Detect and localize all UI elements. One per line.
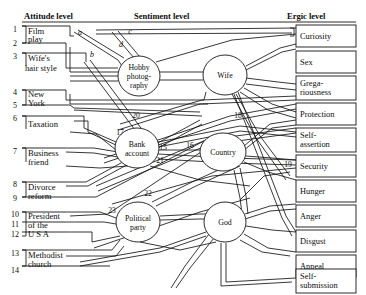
edge-tag-20: 20 — [132, 111, 140, 120]
attitude-bracket-4-5 — [22, 90, 26, 105]
self-submission-label-line: submission — [300, 281, 339, 290]
attitude-label-taxation: Taxation — [28, 119, 59, 129]
wire-business-friend-alt — [66, 166, 128, 168]
edge-tag-16: 16 — [186, 141, 194, 150]
edge-tag-17: 17 — [116, 128, 124, 137]
edge-tag-23: 23 — [108, 206, 116, 215]
wire-business-friend-to-bank — [66, 148, 118, 152]
sentiment-node-political-party[interactable]: Political party — [116, 202, 160, 242]
edge-tag-22: 22 — [144, 189, 152, 198]
attitude-label-line: hair style — [25, 63, 57, 73]
row-number-11: 11 — [11, 220, 19, 229]
attitude-bracket-6 — [22, 116, 26, 129]
protection-label: Protection — [300, 110, 335, 119]
wire-taxation-to-bank — [70, 116, 116, 142]
attitude-label-president-of-the-usa: President of the U S A — [28, 211, 61, 239]
wire-god-to-self-submission — [226, 243, 296, 282]
wire-attitude-1-hook — [70, 26, 74, 36]
wire-god-tail-left — [176, 238, 214, 288]
self-assertion-label-line: Self- — [300, 131, 316, 140]
edge-tag-b: b — [90, 50, 94, 59]
row-number-14: 14 — [11, 266, 19, 275]
ergic-box-gregariousness[interactable]: Grega- riousness — [296, 76, 356, 100]
sentiment-node-hobby-photography[interactable]: Hobby photog- raphy — [118, 56, 160, 96]
bank-account-label-line: account — [125, 149, 150, 158]
ergic-box-self-submission[interactable]: Self- submission — [296, 269, 356, 293]
row-number-5: 5 — [13, 101, 17, 110]
wire-political-to-god — [160, 214, 206, 216]
ergic-box-curiosity[interactable]: Curiosity — [290, 25, 356, 47]
edge-tag-18: 18 — [234, 111, 242, 120]
attitude-label-line: friend — [28, 157, 49, 167]
edge-tag-a: a — [78, 28, 82, 37]
self-assertion-label-line: assertion — [300, 140, 331, 149]
attitude-label-line: Taxation — [28, 119, 59, 129]
sentiment-node-god[interactable]: God — [204, 202, 246, 242]
ergic-box-protection[interactable]: Protection — [296, 103, 356, 125]
attitude-label-divorce-reform: Divorce reform — [28, 182, 56, 201]
wire-president-low — [66, 232, 120, 242]
wire-country-to-self-assertion — [244, 120, 296, 146]
row-number-10: 10 — [11, 210, 19, 219]
edge-tag-15: 15 — [159, 143, 167, 152]
edge-tag-19: 19 — [284, 160, 292, 169]
attitude-bracket-8-9 — [22, 182, 26, 197]
hunger-label: Hunger — [300, 187, 325, 196]
wire-c-to-curiosity — [96, 28, 296, 30]
attitude-label-line: reform — [28, 191, 52, 201]
security-label: Security — [300, 162, 329, 171]
ergic-box-hunger[interactable]: Hunger — [296, 180, 356, 202]
political-party-label-line: party — [130, 223, 146, 232]
wire-president-to-political-b — [66, 222, 116, 224]
wire-political-to-country — [156, 166, 240, 206]
wire-political-to-god-b — [160, 219, 206, 220]
attitude-label-line: U S A — [28, 229, 50, 239]
sentiment-nodes: Hobby photog- raphy Wife Bank account Co… — [115, 55, 247, 242]
attitude-label-line: York — [28, 98, 46, 108]
ergic-box-disgust[interactable]: Disgust — [296, 230, 356, 252]
wire-god-to-appeal-b — [240, 240, 290, 256]
attitude-row-numbers: 1 2 3 4 5 6 7 8 9 10 11 12 13 14 — [11, 25, 19, 275]
row-number-3: 3 — [13, 52, 17, 61]
wire-wife-to-gregariousness — [246, 78, 296, 84]
hobby-photography-label-line: Hobby — [128, 63, 149, 72]
hobby-photography-label-line: photog- — [127, 72, 152, 81]
sentiment-node-wife[interactable]: Wife — [203, 55, 247, 95]
attitude-label-business-friend: Business friend — [28, 148, 59, 167]
row-number-4: 4 — [13, 88, 17, 97]
country-label: Country — [210, 148, 236, 157]
attitude-label-line: church — [28, 259, 52, 269]
political-party-label-line: Political — [125, 214, 152, 223]
edge-tag-d: d — [119, 40, 124, 49]
ergic-box-self-assertion[interactable]: Self- assertion — [296, 128, 356, 152]
row-number-7: 7 — [13, 147, 17, 156]
attitude-labels: Film play Wife's hair style New York Tax… — [25, 26, 63, 269]
bank-account-label-line: Bank — [129, 140, 146, 149]
attitude-column-header: Attitude level — [24, 11, 74, 21]
attitude-label-line: play — [28, 34, 43, 44]
column-headers: Attitude level Sentiment level Ergic lev… — [24, 11, 326, 21]
wire-c-parallel — [96, 33, 292, 34]
attitude-brackets — [22, 26, 26, 266]
row-number-6: 6 — [13, 114, 17, 123]
attitude-bracket-13-14 — [22, 250, 26, 266]
sex-label: Sex — [300, 58, 313, 67]
attitude-label-wifes-hair-style: Wife's hair style — [25, 53, 57, 73]
ergic-box-security[interactable]: Security — [296, 155, 356, 177]
dynamic-lattice-figure: Attitude level Sentiment level Ergic lev… — [0, 0, 366, 295]
row-number-13: 13 — [11, 249, 19, 258]
wire-attitude-3-hook — [70, 53, 86, 62]
sentiment-node-country[interactable]: Country — [200, 133, 246, 171]
wire-god-to-anger — [245, 204, 296, 214]
anger-label: Anger — [300, 212, 321, 221]
curiosity-label: Curiosity — [300, 32, 332, 41]
sentiment-column-header: Sentiment level — [134, 11, 190, 21]
self-submission-label-line: Self- — [300, 272, 316, 281]
ergic-goal-boxes: Curiosity Sex Grega- riousness Protectio… — [290, 25, 356, 293]
attitude-label-new-york: New York — [28, 89, 46, 108]
ergic-box-sex[interactable]: Sex — [296, 51, 356, 73]
wife-label: Wife — [217, 71, 233, 80]
ergic-box-anger[interactable]: Anger — [296, 205, 356, 227]
wire-god-to-appeal — [244, 234, 296, 252]
gregariousness-label-line: riousness — [300, 88, 331, 97]
